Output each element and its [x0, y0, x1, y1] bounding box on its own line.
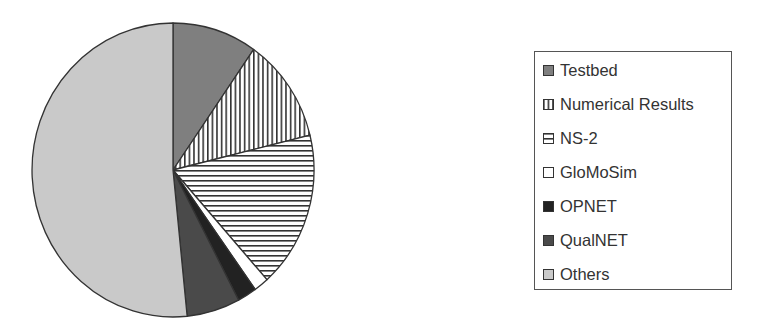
- legend-label: QualNET: [560, 231, 628, 250]
- legend-label: NS-2: [560, 129, 598, 148]
- legend-swatch-testbed: [543, 65, 554, 76]
- legend-item-glomosim: GloMoSim: [543, 162, 637, 182]
- legend-swatch-glomosim: [543, 167, 554, 178]
- legend-item-numerical-results: Numerical Results: [543, 94, 694, 114]
- legend-label: OPNET: [560, 197, 617, 216]
- legend-swatch-qualnet: [543, 235, 554, 246]
- legend-item-testbed: Testbed: [543, 60, 618, 80]
- legend-label: Numerical Results: [560, 95, 694, 114]
- pie-slices: [32, 23, 314, 317]
- legend-swatch-ns-2: [543, 133, 554, 144]
- legend-swatch-numerical-results: [543, 99, 554, 110]
- legend-item-opnet: OPNET: [543, 196, 617, 216]
- chart-legend: Testbed Numerical Results NS-2 GloMoSim …: [534, 51, 732, 290]
- legend-swatch-others: [543, 269, 554, 280]
- legend-label: Testbed: [560, 61, 618, 80]
- pie-slice-others: [32, 23, 187, 317]
- legend-item-ns-2: NS-2: [543, 128, 598, 148]
- legend-swatch-opnet: [543, 201, 554, 212]
- legend-label: Others: [560, 265, 610, 284]
- legend-item-qualnet: QualNET: [543, 230, 628, 250]
- legend-label: GloMoSim: [560, 163, 637, 182]
- legend-item-others: Others: [543, 264, 610, 284]
